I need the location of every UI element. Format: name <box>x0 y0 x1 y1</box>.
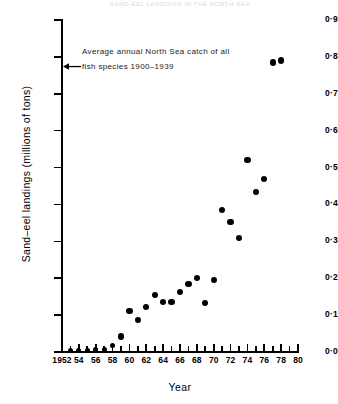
x-tick <box>137 346 139 352</box>
x-tick <box>196 344 198 352</box>
x-tick <box>204 346 206 352</box>
x-tick <box>162 344 164 352</box>
y-tick-label: 0·5 <box>288 162 338 172</box>
data-point <box>219 207 225 213</box>
x-tick <box>120 346 122 352</box>
data-point <box>160 299 166 305</box>
x-tick <box>213 344 215 352</box>
data-point <box>110 343 115 348</box>
data-point <box>194 275 200 281</box>
data-point <box>118 333 124 339</box>
data-point <box>85 348 90 353</box>
y-axis-title: Sand–eel landings (millions of tons) <box>20 64 32 284</box>
y-tick <box>54 314 62 316</box>
chart-figure: SAND-EEL LANDINGS IN THE NORTH SEA 0·00·… <box>0 0 338 404</box>
y-tick-label: 0·8 <box>288 51 338 61</box>
data-point <box>102 347 107 352</box>
x-tick <box>145 344 147 352</box>
data-point <box>177 289 183 295</box>
y-tick <box>54 167 62 169</box>
x-tick <box>238 346 240 352</box>
data-point <box>278 57 284 63</box>
y-tick-label: 0·9 <box>288 14 338 24</box>
x-tick <box>179 344 181 352</box>
y-tick <box>54 19 62 21</box>
y-tick <box>54 277 62 279</box>
data-point <box>270 59 276 65</box>
y-tick-label: 0·6 <box>288 125 338 135</box>
y-tick-label: 0·3 <box>288 235 338 245</box>
x-tick <box>230 344 232 352</box>
x-tick <box>171 346 173 352</box>
x-tick <box>272 346 274 352</box>
x-tick <box>280 344 282 352</box>
annotation-text-block: Average annual North Sea catch of all fi… <box>82 44 282 74</box>
y-tick <box>54 130 62 132</box>
data-point <box>135 317 141 323</box>
data-point <box>253 189 259 195</box>
faded-figure-title: SAND-EEL LANDINGS IN THE NORTH SEA <box>60 1 300 7</box>
data-point <box>236 235 242 241</box>
data-point <box>185 281 191 287</box>
y-tick <box>54 241 62 243</box>
x-tick <box>61 344 63 352</box>
y-tick-label: 0·7 <box>288 88 338 98</box>
x-tick <box>297 344 299 352</box>
annotation-line-1: Average annual North Sea catch of all <box>82 44 282 59</box>
data-point <box>211 277 217 283</box>
x-tick <box>221 346 223 352</box>
data-point <box>227 219 233 225</box>
y-tick-label: 0·2 <box>288 272 338 282</box>
y-tick-label: 0·1 <box>288 309 338 319</box>
y-tick <box>54 56 62 58</box>
x-tick <box>188 346 190 352</box>
data-point <box>168 299 174 305</box>
y-tick <box>54 93 62 95</box>
data-point <box>68 348 73 353</box>
x-tick <box>289 346 291 352</box>
data-point <box>152 292 158 298</box>
data-point <box>126 308 132 314</box>
x-tick-label: 80 <box>278 355 318 365</box>
data-point <box>202 300 208 306</box>
x-tick <box>255 346 257 352</box>
data-point <box>261 176 267 182</box>
x-tick <box>263 344 265 352</box>
y-tick-label: 0·4 <box>288 198 338 208</box>
x-tick <box>129 344 131 352</box>
y-tick <box>54 204 62 206</box>
x-axis-title: Year <box>120 381 240 393</box>
annotation-line-2: fish species 1900–1939 <box>82 59 282 74</box>
x-tick <box>154 346 156 352</box>
data-point <box>244 157 250 163</box>
x-tick <box>247 344 249 352</box>
data-point <box>143 304 149 310</box>
left-arrow-icon <box>63 62 81 71</box>
